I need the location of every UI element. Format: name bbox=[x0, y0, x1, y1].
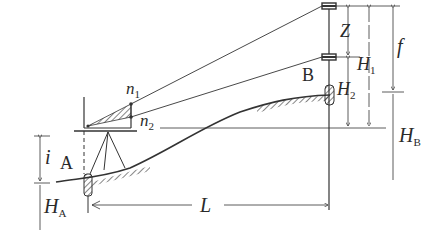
label-l: L bbox=[200, 195, 211, 215]
label-ha: HA bbox=[44, 196, 66, 216]
label-n1: n1 bbox=[126, 80, 140, 97]
label-hb: HB bbox=[399, 125, 421, 145]
angle-wedge bbox=[88, 104, 131, 126]
ground-profile bbox=[56, 95, 330, 182]
label-f: f bbox=[397, 36, 403, 56]
sight-line-top bbox=[131, 6, 322, 104]
label-n2: n2 bbox=[140, 112, 154, 129]
label-point-a: A bbox=[60, 154, 73, 172]
label-h2: H2 bbox=[337, 80, 356, 98]
sight-line-lower bbox=[131, 57, 322, 117]
label-z: Z bbox=[340, 22, 350, 40]
label-point-b: B bbox=[302, 66, 314, 84]
label-h1: H1 bbox=[357, 55, 376, 73]
label-i: i bbox=[45, 147, 51, 167]
peg-a bbox=[84, 174, 92, 196]
leveling-diagram: n1 n2 B A Z H1 H2 f HB i HA L bbox=[0, 0, 428, 242]
